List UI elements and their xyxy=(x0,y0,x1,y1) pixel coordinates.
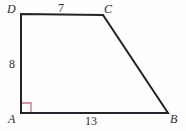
vertex-label-d: D xyxy=(7,3,16,15)
trapezoid-outline xyxy=(21,14,168,113)
vertex-label-b: B xyxy=(170,113,177,125)
right-angle-marker xyxy=(22,103,31,112)
vertex-label-c: C xyxy=(104,3,112,15)
side-length-ab: 13 xyxy=(85,115,97,127)
vertex-label-a: A xyxy=(8,113,15,125)
side-length-dc: 7 xyxy=(58,2,64,14)
trapezoid-drawing xyxy=(0,0,186,131)
geometry-figure: D C B A 7 8 13 xyxy=(0,0,186,131)
side-length-da: 8 xyxy=(9,58,15,70)
